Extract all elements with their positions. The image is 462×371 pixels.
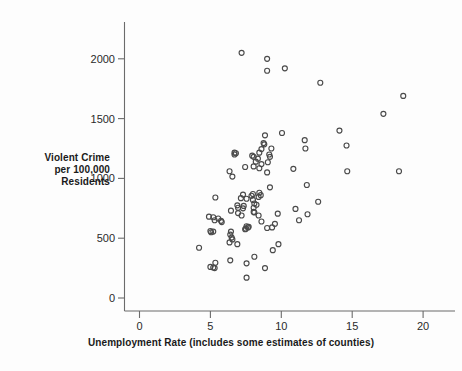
data-point [244,275,249,280]
x-tick-label: 20 [417,320,429,332]
data-point [239,50,244,55]
data-point [230,174,235,179]
y-axis-title-line-3: Residents [14,176,110,188]
data-point [269,146,274,151]
data-point [213,195,218,200]
scatter-plot-figure: 0500100015002000 05101520 Violent Crime … [0,0,462,371]
data-point [305,212,310,217]
data-point [293,206,298,211]
x-tick-group: 05101520 [136,311,429,332]
x-tick-label: 0 [136,320,142,332]
data-point [244,261,249,266]
y-tick-label: 2000 [91,53,115,65]
data-point [344,143,349,148]
data-point [251,164,256,169]
data-point [227,240,232,245]
y-tick-label: 0 [109,292,115,304]
data-point [235,242,240,247]
data-point [275,211,280,216]
data-points-group [197,50,406,280]
data-point [270,225,275,230]
y-axis-title-line-1: Violent Crime [14,152,110,164]
data-point [265,160,270,165]
data-point [401,93,406,98]
data-point [265,170,270,175]
data-point [270,248,275,253]
y-tick-label: 1500 [91,113,115,125]
data-point [262,266,267,271]
x-tick-label: 10 [275,320,287,332]
data-point [227,169,232,174]
data-point [197,245,202,250]
data-point [396,169,401,174]
data-point [337,128,342,133]
data-point [257,166,262,171]
data-point [243,165,248,170]
data-point [345,169,350,174]
data-point [265,226,270,231]
data-point [282,66,287,71]
x-tick-label: 5 [207,320,213,332]
y-axis-title-line-2: per 100,000 [14,164,110,176]
data-point [259,219,264,224]
axes-group [125,22,456,311]
data-point [265,68,270,73]
data-point [291,166,296,171]
data-point [302,138,307,143]
data-point [228,208,233,213]
data-point [262,133,267,138]
x-axis-title: Unemployment Rate (includes some estimat… [0,337,462,348]
x-tick-label: 15 [346,320,358,332]
data-point [297,218,302,223]
data-point [267,185,272,190]
data-point [256,213,261,218]
data-point [244,196,249,201]
y-tick-label: 500 [97,232,115,244]
data-point [381,111,386,116]
data-point [303,146,308,151]
data-point [228,258,233,263]
data-point [280,130,285,135]
data-point [304,182,309,187]
data-point [265,56,270,61]
y-axis-title: Violent Crime per 100,000 Residents [14,152,110,188]
data-point [252,254,257,259]
data-point [316,199,321,204]
data-point [276,242,281,247]
data-point [318,80,323,85]
